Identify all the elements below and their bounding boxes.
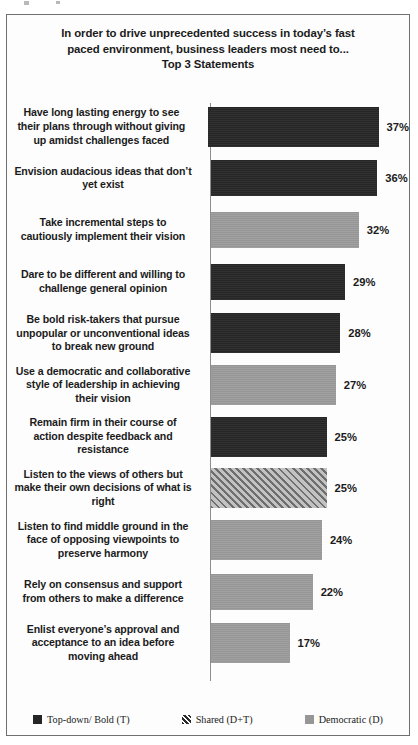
bar-category-label: Listen to find middle ground in theface … (7, 520, 205, 561)
chart-title: In order to drive unprecedented success … (23, 26, 393, 73)
bar-row: Listen to find middle ground in theface … (7, 514, 409, 566)
bar-track: 37% (202, 101, 409, 153)
bar-category-label-line: Envision audacious ideas that don’t (7, 165, 199, 179)
bar-track: 32% (205, 204, 409, 256)
legend-label-shared: Shared (D+T) (196, 714, 253, 725)
bar-value-label: 25% (335, 482, 357, 494)
legend-item-topdown[interactable]: Top-down/ Bold (T) (33, 714, 129, 725)
bar-democratic[interactable] (211, 574, 313, 610)
bar-row: Listen to the views of others butmake th… (7, 462, 409, 514)
bar-category-label: Enlist everyone’s approval andacceptance… (7, 623, 205, 664)
bar-value-label: 32% (367, 224, 389, 236)
bar-category-label-line: Enlist everyone’s approval and (7, 623, 199, 637)
bar-shared[interactable] (211, 468, 327, 508)
legend-label-topdown: Top-down/ Bold (T) (47, 714, 129, 725)
bar-category-label-line: right (7, 495, 199, 509)
bar-category-label: Dare to be different and willing tochall… (7, 268, 205, 295)
chart-title-line-2: paced environment, business leaders most… (23, 42, 393, 58)
chart-title-line-1: In order to drive unprecedented success … (23, 26, 393, 42)
bar-value-label: 24% (330, 534, 352, 546)
bar-category-label: Be bold risk-takers that pursueunpopular… (7, 313, 205, 354)
bar-category-label-line: Use a democratic and collaborative (7, 365, 199, 379)
bar-track: 22% (205, 566, 409, 618)
bar-democratic[interactable] (211, 623, 290, 663)
scan-speck-right (56, 1, 60, 4)
bar-value-label: 27% (344, 379, 366, 391)
legend-swatch-democratic-icon (305, 715, 314, 724)
bar-category-label-line: Remain firm in their course of (7, 416, 199, 430)
bar-category-label-line: challenge general opinion (7, 282, 199, 296)
bar-row: Dare to be different and willing tochall… (7, 256, 409, 308)
bar-category-label: Use a democratic and collaborativestyle … (7, 365, 205, 406)
bar-value-label: 22% (321, 586, 343, 598)
bar-value-label: 17% (298, 637, 320, 649)
bar-category-label-line: to break new ground (7, 340, 199, 354)
bar-category-label: Rely on consensus and supportfrom others… (7, 578, 205, 605)
bar-category-label-line: Dare to be different and willing to (7, 268, 199, 282)
bar-value-label: 36% (385, 172, 407, 184)
legend-item-democratic[interactable]: Democratic (D) (305, 714, 383, 725)
bar-topdown[interactable] (211, 264, 345, 300)
chart-legend: Top-down/ Bold (T) Shared (D+T) Democrat… (7, 714, 409, 725)
bar-track: 28% (205, 308, 409, 360)
bar-category-label-line: from others to make a difference (7, 592, 199, 606)
chart-title-line-3: Top 3 Statements (23, 57, 393, 73)
legend-label-democratic: Democratic (D) (319, 714, 383, 725)
bar-category-label-line: Have long lasting energy to see (7, 106, 196, 120)
bar-category-label-line: Be bold risk-takers that pursue (7, 313, 199, 327)
bar-category-label: Listen to the views of others butmake th… (7, 468, 205, 509)
bar-category-label-line: preserve harmony (7, 547, 199, 561)
bar-track: 25% (205, 462, 409, 514)
bar-category-label-line: style of leadership in achieving (7, 378, 199, 392)
legend-item-shared[interactable]: Shared (D+T) (182, 714, 253, 725)
bar-row: Use a democratic and collaborativestyle … (7, 359, 409, 411)
bar-category-label-line: Listen to find middle ground in the (7, 520, 199, 534)
bar-category-label: Have long lasting energy to seetheir pla… (7, 106, 202, 147)
bar-category-label-line: Listen to the views of others but (7, 468, 199, 482)
chart-container: In order to drive unprecedented success … (6, 14, 410, 736)
bar-category-label-line: resistance (7, 443, 199, 457)
bar-chart-plot-area: Have long lasting energy to seetheir pla… (7, 99, 409, 685)
bar-row: Remain firm in their course ofaction des… (7, 411, 409, 463)
bar-category-label-line: up amidst challenges faced (7, 134, 196, 148)
bar-category-label-line: make their own decisions of what is (7, 481, 199, 495)
scan-speck-left (24, 1, 29, 5)
bar-category-label-line: acceptance to an idea before (7, 636, 199, 650)
bar-row: Rely on consensus and supportfrom others… (7, 566, 409, 618)
bar-track: 27% (205, 359, 409, 411)
bar-track: 17% (205, 617, 409, 669)
bar-value-label: 29% (353, 276, 375, 288)
legend-swatch-shared-icon (182, 715, 191, 724)
bar-category-label-line: their plans through without giving (7, 120, 196, 134)
bar-value-label: 28% (348, 327, 370, 339)
bar-row: Enlist everyone’s approval andacceptance… (7, 617, 409, 669)
bar-category-label-line: moving ahead (7, 650, 199, 664)
bar-category-label: Remain firm in their course ofaction des… (7, 416, 205, 457)
bar-category-label: Envision audacious ideas that don’tyet e… (7, 165, 205, 192)
bar-track: 25% (205, 411, 409, 463)
bar-row: Take incremental steps tocautiously impl… (7, 204, 409, 256)
bar-topdown[interactable] (211, 313, 340, 353)
bar-value-label: 37% (387, 121, 409, 133)
bar-category-label: Take incremental steps tocautiously impl… (7, 216, 205, 243)
bar-category-label-line: cautiously implement their vision (7, 230, 199, 244)
legend-swatch-topdown-icon (33, 715, 42, 724)
bar-row: Be bold risk-takers that pursueunpopular… (7, 308, 409, 360)
scan-artifact-strip (0, 0, 418, 12)
bar-value-label: 25% (335, 431, 357, 443)
bar-track: 24% (205, 514, 409, 566)
bar-category-label-line: Rely on consensus and support (7, 578, 199, 592)
bar-democratic[interactable] (211, 520, 322, 560)
bar-category-label-line: Take incremental steps to (7, 216, 199, 230)
bar-category-label-line: unpopular or unconventional ideas (7, 327, 199, 341)
bar-row: Have long lasting energy to seetheir pla… (7, 101, 409, 153)
bar-category-label-line: action despite feedback and (7, 430, 199, 444)
bar-democratic[interactable] (211, 212, 359, 248)
bar-topdown[interactable] (211, 417, 327, 457)
bar-topdown[interactable] (208, 107, 379, 147)
bar-track: 29% (205, 256, 409, 308)
bar-topdown[interactable] (211, 160, 377, 196)
bar-democratic[interactable] (211, 365, 336, 405)
bar-category-label-line: yet exist (7, 178, 199, 192)
bar-category-label-line: face of opposing viewpoints to (7, 533, 199, 547)
